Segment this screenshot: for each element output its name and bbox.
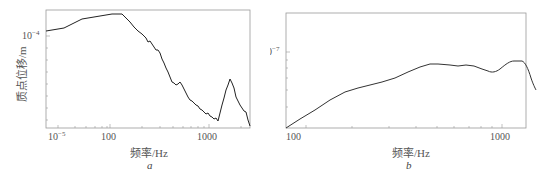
chart-panel-b: 10−7 100 1000 质点位移/m 频率/Hz b <box>270 0 539 180</box>
y-ticks-a <box>46 36 50 120</box>
x-tick-label-b-2: 1000 <box>490 131 510 142</box>
x-tick-label-a-2: 100 <box>101 131 116 142</box>
x-ticks-a <box>58 124 241 128</box>
chart-panel-a: 10−4 10−5 100 1000 质点位移/m 频率/Hz a <box>0 0 270 180</box>
y-axis-title-a: 质点位移/m <box>15 46 28 102</box>
y-tick-label-a: 10−4 <box>22 29 40 41</box>
plot-frame-b <box>286 13 526 128</box>
subfigure-label-a: a <box>147 159 153 171</box>
x-tick-label-a-1: 10−5 <box>48 130 66 142</box>
x-tick-label-a-3: 1000 <box>197 131 217 142</box>
chart-a-svg: 10−4 10−5 100 1000 质点位移/m 频率/Hz a <box>0 0 270 180</box>
y-ticks-b <box>286 52 290 107</box>
subfigure-label-b: b <box>406 159 412 171</box>
plot-frame-a <box>46 10 250 128</box>
x-tick-label-b-1: 100 <box>286 131 301 142</box>
series-line-b <box>286 61 536 128</box>
y-tick-label-b: 10−7 <box>270 45 280 57</box>
chart-b-svg: 10−7 100 1000 质点位移/m 频率/Hz b <box>270 0 539 180</box>
series-line-a <box>46 14 250 126</box>
x-axis-title-b: 频率/Hz <box>392 146 430 159</box>
x-ticks-b <box>306 124 502 128</box>
x-axis-title-a: 频率/Hz <box>130 146 168 159</box>
